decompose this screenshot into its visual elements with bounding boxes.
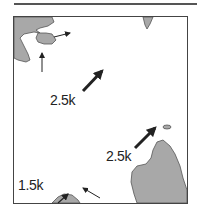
arrow-center-northeast-icon <box>83 71 102 91</box>
flow-label-right: 2.5k <box>106 149 131 163</box>
flow-label-center: 2.5k <box>50 93 75 107</box>
islet-right <box>163 125 171 129</box>
flow-label-bottom-left: 1.5k <box>18 178 43 192</box>
landmass-right <box>131 140 187 203</box>
landmass-top-right <box>143 17 153 29</box>
arrow-top-left-east-icon <box>54 33 70 37</box>
island-top-left <box>36 33 56 44</box>
arrow-right-northeast-icon <box>135 128 155 148</box>
arrow-bottom-northwest-icon <box>83 188 100 198</box>
